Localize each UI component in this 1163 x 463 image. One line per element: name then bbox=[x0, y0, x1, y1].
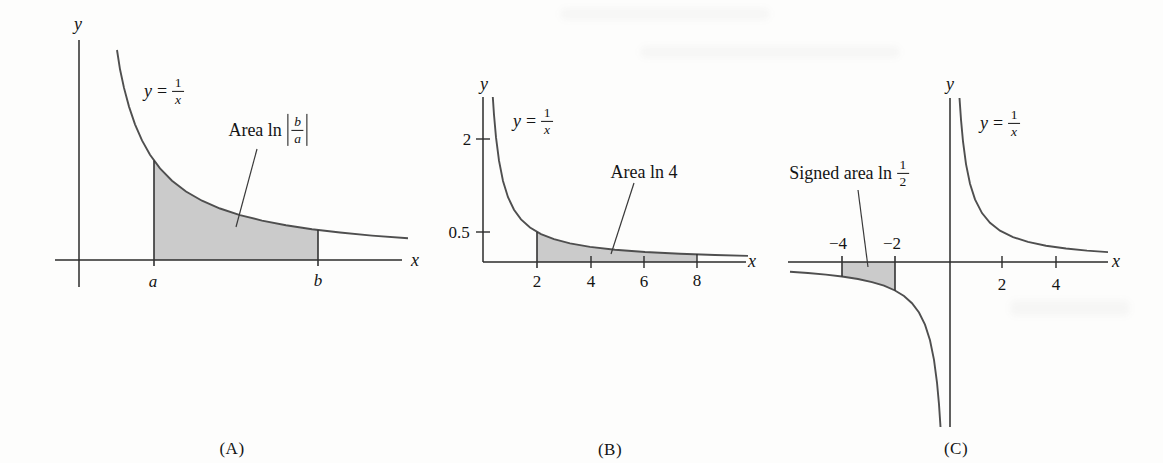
x-tick-label-b-4: 4 bbox=[587, 273, 596, 290]
pointer-line-a bbox=[236, 149, 257, 227]
fraction-denominator: x bbox=[175, 92, 181, 108]
panel-c-graphics bbox=[788, 98, 1108, 427]
pointer-line-b bbox=[611, 183, 634, 254]
equation-equals: = bbox=[993, 114, 1003, 132]
area-label-a: Area ln b a bbox=[228, 114, 307, 146]
x-axis-label-b: x bbox=[748, 252, 756, 270]
y-axis-label-b: y bbox=[480, 75, 488, 93]
x-tick-label-b-2: 2 bbox=[533, 273, 542, 290]
x-tick-label-c-neg2: −2 bbox=[883, 235, 901, 252]
fraction-numerator: b bbox=[292, 114, 304, 131]
equation-lhs: y bbox=[513, 112, 521, 130]
fraction-denominator: x bbox=[544, 122, 550, 138]
equation-equals: = bbox=[526, 112, 536, 130]
curve-equation-a: y = 1 x bbox=[144, 75, 184, 107]
pointer-line-c bbox=[858, 190, 868, 267]
caption-a: (A) bbox=[219, 440, 244, 457]
y-axis-label-a: y bbox=[74, 15, 82, 33]
caption-c: (C) bbox=[944, 440, 968, 457]
curve-equation-b: y = 1 x bbox=[513, 105, 553, 137]
fraction-numerator: 1 bbox=[897, 157, 909, 174]
equation-fraction: 1 x bbox=[541, 105, 553, 137]
y-axis-label-c: y bbox=[946, 75, 954, 93]
area-label-b: Area ln 4 bbox=[611, 163, 678, 181]
area-fraction-c: 1 2 bbox=[897, 157, 909, 189]
x-tick-label-a-a: a bbox=[149, 273, 158, 290]
x-tick-label-c-2: 2 bbox=[998, 276, 1007, 293]
equation-lhs: y bbox=[980, 114, 988, 132]
fraction-denominator: x bbox=[1011, 124, 1017, 140]
x-tick-label-c-neg4: −4 bbox=[829, 235, 847, 252]
panel-a-graphics bbox=[55, 40, 408, 287]
textbook-figure-ln-area: y x y = 1 x Area ln b a a b (A) y x y = … bbox=[0, 0, 1163, 463]
fraction-denominator: 2 bbox=[900, 174, 907, 190]
fraction-numerator: 1 bbox=[541, 105, 553, 122]
area-label-c-text: Signed area ln bbox=[789, 164, 892, 182]
x-tick-label-b-6: 6 bbox=[640, 273, 649, 290]
equation-fraction: 1 x bbox=[172, 75, 184, 107]
equation-fraction: 1 x bbox=[1008, 107, 1020, 139]
area-label-a-text: Area ln bbox=[228, 121, 281, 139]
figure-canvas bbox=[0, 0, 1163, 463]
y-tick-label-b-05: 0.5 bbox=[448, 224, 469, 241]
x-axis-label-a: x bbox=[411, 251, 419, 269]
equation-lhs: y bbox=[144, 82, 152, 100]
x-tick-label-b-8: 8 bbox=[693, 272, 702, 289]
curve-c-negative-branch bbox=[790, 272, 941, 427]
fraction-numerator: 1 bbox=[172, 75, 184, 92]
y-tick-label-b-2: 2 bbox=[463, 131, 472, 148]
x-tick-label-a-b: b bbox=[314, 272, 323, 289]
caption-b: (B) bbox=[598, 441, 622, 458]
x-axis-label-c: x bbox=[1112, 252, 1120, 270]
shaded-region-a bbox=[154, 161, 318, 260]
equation-equals: = bbox=[157, 82, 167, 100]
fraction-numerator: 1 bbox=[1008, 107, 1020, 124]
curve-equation-c: y = 1 x bbox=[980, 107, 1020, 139]
absolute-value-bars: b a bbox=[288, 114, 308, 146]
x-tick-label-c-4: 4 bbox=[1052, 276, 1061, 293]
area-label-c: Signed area ln 1 2 bbox=[789, 157, 909, 189]
fraction-denominator: a bbox=[294, 131, 301, 147]
area-fraction-a: b a bbox=[292, 114, 304, 146]
